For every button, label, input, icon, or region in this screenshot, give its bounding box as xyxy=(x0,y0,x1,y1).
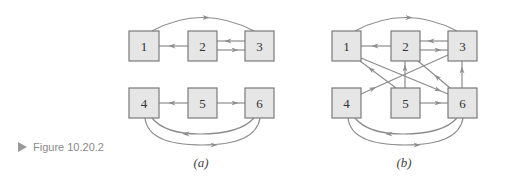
node-1: 1 xyxy=(129,31,159,61)
node-6: 6 xyxy=(245,88,274,118)
node-5: 5 xyxy=(391,88,420,118)
node-2: 2 xyxy=(188,31,217,61)
svg-text:5: 5 xyxy=(402,96,409,111)
svg-text:3: 3 xyxy=(459,39,466,54)
svg-text:4: 4 xyxy=(141,96,148,111)
diagram-b: 1 2 3 4 5 6 (b) xyxy=(332,18,477,171)
svg-text:1: 1 xyxy=(343,39,350,54)
node-4: 4 xyxy=(129,88,159,118)
node-2: 2 xyxy=(391,31,420,61)
caption-b: (b) xyxy=(396,155,411,170)
node-5: 5 xyxy=(188,88,217,118)
edge-4-6 xyxy=(145,118,260,145)
node-4: 4 xyxy=(332,88,361,118)
node-3: 3 xyxy=(448,31,477,61)
edge-6-4 xyxy=(152,118,254,134)
svg-text:2: 2 xyxy=(199,39,206,54)
diagram-a: 1 2 3 4 5 6 (a) xyxy=(129,18,274,171)
node-1: 1 xyxy=(332,31,361,61)
svg-text:6: 6 xyxy=(459,96,466,111)
edge-1-3 xyxy=(355,18,457,32)
edge-4-6 xyxy=(348,118,463,145)
svg-text:2: 2 xyxy=(402,39,409,54)
svg-text:4: 4 xyxy=(343,96,350,111)
svg-text:1: 1 xyxy=(141,39,148,54)
caption-a: (a) xyxy=(193,155,208,170)
node-3: 3 xyxy=(245,31,274,61)
svg-text:3: 3 xyxy=(256,39,263,54)
edge-1-3 xyxy=(152,18,254,32)
node-6: 6 xyxy=(448,88,477,118)
svg-text:6: 6 xyxy=(256,96,263,111)
svg-text:5: 5 xyxy=(199,96,206,111)
edge-6-4 xyxy=(355,118,457,134)
